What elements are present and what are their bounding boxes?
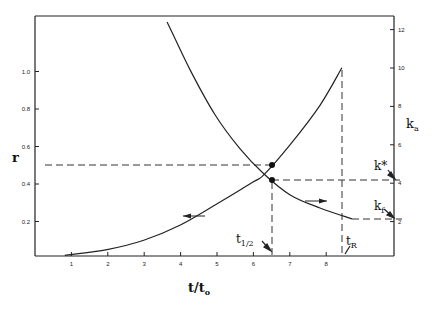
x-tick-label: 7 [288, 261, 292, 267]
k-star-label: k* [374, 159, 387, 173]
y-right-axis-ticks: 24681012 [390, 27, 405, 225]
ka-curve [167, 22, 352, 219]
t-r-label: tR [346, 234, 358, 250]
x-tick-label: 2 [106, 261, 110, 267]
plot-frame [35, 16, 394, 256]
reference-lines [45, 70, 402, 256]
y-left-label: r [12, 150, 19, 165]
x-tick-label: 5 [215, 261, 219, 267]
chart: 12345678 0.20.40.60.81.0 24681012 r ka t… [0, 0, 433, 311]
x-tick-label: 6 [252, 261, 256, 267]
y-tick-label: 0.2 [22, 219, 31, 225]
y-right-tick-label: 8 [398, 103, 402, 109]
y-right-tick-label: 10 [398, 65, 405, 71]
x-tick-label: 1 [70, 261, 74, 267]
y-tick-label: 0.6 [22, 144, 31, 150]
x-axis-ticks: 12345678 [70, 252, 329, 267]
x-tick-label: 8 [325, 261, 329, 267]
y-right-tick-label: 6 [398, 142, 402, 148]
marker-r-half [269, 162, 275, 168]
y-right-tick-label: 4 [398, 180, 402, 186]
x-tick-label: 3 [143, 261, 147, 267]
marker-k-star [269, 177, 275, 183]
y-left-axis-ticks: 0.20.40.60.81.0 [22, 69, 39, 225]
y-right-label: ka [406, 116, 419, 133]
arrow-right-icon [305, 199, 327, 204]
y-tick-label: 0.4 [22, 181, 31, 187]
y-right-tick-label: 12 [398, 27, 405, 33]
y-tick-label: 1.0 [22, 69, 31, 75]
y-tick-label: 0.8 [22, 106, 31, 112]
k-f-label: kf [374, 199, 385, 215]
x-tick-label: 4 [179, 261, 183, 267]
x-axis-label: t/to [188, 280, 211, 297]
t-half-label: t1/2 [236, 232, 254, 248]
